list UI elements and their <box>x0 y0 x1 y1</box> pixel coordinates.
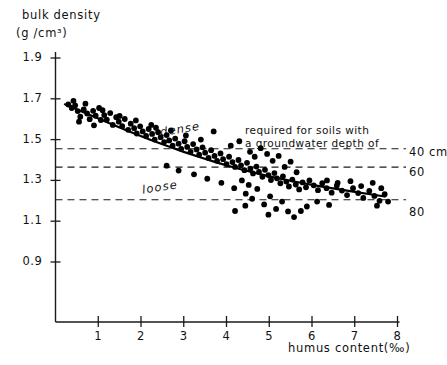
scatter-point <box>282 164 288 170</box>
scatter-point <box>298 208 304 214</box>
scatter-point <box>202 150 208 156</box>
x-tick-label: 7 <box>346 329 364 343</box>
scatter-point <box>252 154 258 160</box>
scatter-point <box>184 144 190 150</box>
scatter-point <box>107 110 113 116</box>
scatter-point <box>265 212 271 218</box>
y-tick-label: 0.9 <box>13 254 43 268</box>
scatter-point <box>218 180 224 186</box>
scatter-point <box>378 185 384 191</box>
scatter-point <box>133 118 139 124</box>
scatter-point <box>385 199 391 205</box>
scatter-point <box>238 162 244 168</box>
scatter-point <box>262 167 268 173</box>
scatter-point <box>164 163 170 169</box>
scatter-point <box>137 123 143 129</box>
scatter-point <box>267 193 273 199</box>
scatter-point <box>244 160 250 166</box>
scatter-point <box>182 138 188 144</box>
chart-figure: bulk density (g /cm³) humus content(‰) r… <box>0 0 447 365</box>
scatter-point <box>83 101 89 107</box>
scatter-point <box>211 129 217 135</box>
scatter-point <box>315 187 321 193</box>
scatter-point <box>164 132 170 138</box>
plot-canvas <box>0 0 447 365</box>
scatter-point <box>273 206 279 212</box>
scatter-point <box>231 185 237 191</box>
scatter-point <box>247 149 253 155</box>
scatter-point <box>149 131 155 137</box>
scatter-point <box>249 196 255 202</box>
scatter-point <box>242 203 248 209</box>
scatter-point <box>176 141 182 147</box>
scatter-point <box>264 151 270 157</box>
scatter-point <box>91 122 97 128</box>
scatter-points-group <box>65 98 391 220</box>
scatter-point <box>246 182 252 188</box>
scatter-point <box>228 143 234 149</box>
scatter-point <box>190 141 196 147</box>
scatter-point <box>286 184 292 190</box>
x-tick-label: 5 <box>260 329 278 343</box>
scatter-point <box>226 154 232 160</box>
scatter-point <box>172 136 178 142</box>
scatter-point <box>370 180 376 186</box>
scatter-point <box>194 146 200 152</box>
scatter-point <box>326 202 332 208</box>
y-tick-label: 1.5 <box>13 132 43 146</box>
x-tick-label: 3 <box>175 329 193 343</box>
scatter-point <box>374 203 380 209</box>
scatter-point <box>87 116 93 122</box>
scatter-point <box>218 151 224 157</box>
scatter-point <box>254 186 260 192</box>
scatter-point <box>122 116 128 122</box>
scatter-point <box>291 214 297 220</box>
scatter-point <box>271 170 277 176</box>
scatter-point <box>254 164 260 170</box>
scatter-point <box>358 183 364 189</box>
x-tick-label: 6 <box>303 329 321 343</box>
scatter-point <box>303 184 309 190</box>
scatter-point <box>276 153 282 159</box>
scatter-point <box>277 180 283 186</box>
scatter-point <box>294 169 300 175</box>
scatter-point <box>377 198 383 204</box>
scatter-point <box>191 171 197 177</box>
scatter-point <box>76 119 82 125</box>
y-tick-label: 1.9 <box>13 50 43 64</box>
scatter-point <box>285 209 291 215</box>
scatter-point <box>200 144 206 150</box>
scatter-point <box>258 145 264 151</box>
scatter-point <box>239 178 245 184</box>
scatter-point <box>131 125 137 131</box>
x-tick-label: 2 <box>132 329 150 343</box>
x-tick-label: 8 <box>389 329 407 343</box>
scatter-point <box>208 147 214 153</box>
scatter-point <box>71 98 77 104</box>
scatter-point <box>90 108 96 114</box>
scatter-point <box>148 122 154 128</box>
scatter-point <box>335 180 341 186</box>
scatter-point <box>288 159 294 165</box>
scatter-point <box>324 178 330 184</box>
scatter-point <box>261 202 267 208</box>
scatter-point <box>117 113 123 119</box>
scatter-point <box>166 138 172 144</box>
scatter-point <box>243 191 249 197</box>
scatter-point <box>100 107 106 113</box>
scatter-point <box>158 134 164 140</box>
scatter-point <box>344 192 350 198</box>
y-tick-label: 1.7 <box>13 91 43 105</box>
scatter-point <box>232 208 238 214</box>
scatter-point <box>220 156 226 162</box>
scatter-point <box>314 199 320 205</box>
scatter-point <box>176 168 182 174</box>
scatter-point <box>279 199 285 205</box>
axes-group <box>51 52 400 327</box>
scatter-point <box>360 195 366 201</box>
scatter-point <box>236 138 242 144</box>
scatter-point <box>329 190 335 196</box>
x-tick-label: 4 <box>218 329 236 343</box>
scatter-point <box>77 114 83 120</box>
scatter-point <box>183 133 189 139</box>
